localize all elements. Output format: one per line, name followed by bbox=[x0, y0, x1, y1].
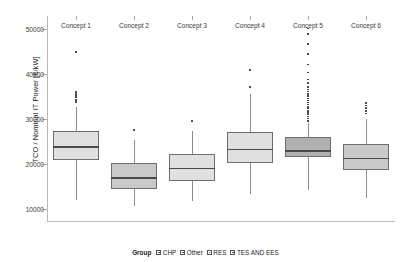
lower-whisker bbox=[192, 181, 193, 202]
outlier-point bbox=[307, 64, 309, 66]
y-tick-label: 10000 bbox=[26, 205, 44, 212]
y-tick-label: 30000 bbox=[26, 116, 44, 123]
box-iqr bbox=[111, 163, 157, 189]
outlier-point bbox=[365, 110, 367, 112]
box-plot-group bbox=[343, 16, 389, 222]
legend-entry[interactable]: TES AND EES bbox=[230, 249, 278, 256]
outlier-point bbox=[191, 120, 193, 122]
legend-entry-label: RES bbox=[213, 249, 226, 256]
outlier-point bbox=[307, 120, 309, 122]
box-plot-group bbox=[111, 16, 157, 222]
outlier-point bbox=[75, 93, 77, 95]
legend-key-icon bbox=[180, 250, 185, 255]
upper-whisker bbox=[76, 107, 77, 130]
outlier-point bbox=[307, 72, 309, 74]
legend-entry[interactable]: Other bbox=[180, 249, 202, 256]
lower-whisker bbox=[250, 163, 251, 194]
box-plot-group bbox=[227, 16, 273, 222]
lower-whisker bbox=[76, 160, 77, 199]
box-iqr bbox=[343, 144, 389, 170]
y-axis-label: TCO / Nominal IT Power [€/kW] bbox=[31, 15, 40, 205]
outlier-point bbox=[307, 33, 309, 35]
lower-whisker bbox=[308, 157, 309, 190]
legend-entry[interactable]: RES bbox=[207, 249, 227, 256]
outlier-point bbox=[365, 102, 367, 104]
lower-whisker bbox=[366, 170, 367, 198]
outlier-point bbox=[307, 98, 309, 100]
legend-key-icon bbox=[156, 250, 161, 255]
outlier-point bbox=[307, 106, 309, 108]
legend: Group CHPOtherRESTES AND EES bbox=[0, 249, 411, 256]
upper-whisker bbox=[134, 140, 135, 162]
box-plot-group bbox=[169, 16, 215, 222]
median-line bbox=[111, 177, 157, 178]
y-tick-label: 50000 bbox=[26, 26, 44, 33]
outlier-point bbox=[307, 79, 309, 81]
box-plot-group bbox=[285, 16, 331, 222]
outlier-point bbox=[307, 89, 309, 91]
outlier-point bbox=[307, 102, 309, 104]
outlier-point bbox=[75, 101, 77, 103]
legend-title: Group bbox=[132, 249, 151, 256]
upper-whisker bbox=[308, 123, 309, 136]
legend-key-icon bbox=[207, 250, 212, 255]
median-line bbox=[53, 146, 99, 147]
y-tick-label: 20000 bbox=[26, 160, 44, 167]
median-line bbox=[227, 149, 273, 150]
outlier-point bbox=[307, 95, 309, 97]
legend-entries: CHPOtherRESTES AND EES bbox=[156, 249, 279, 256]
outlier-point bbox=[365, 107, 367, 109]
outlier-point bbox=[307, 113, 309, 115]
outlier-point bbox=[75, 51, 77, 53]
median-line bbox=[343, 158, 389, 159]
outlier-point bbox=[307, 43, 309, 45]
y-tick-label: 40000 bbox=[26, 71, 44, 78]
box-plot-group bbox=[53, 16, 99, 222]
median-line bbox=[285, 150, 331, 151]
upper-whisker bbox=[250, 94, 251, 133]
legend-entry-label: TES AND EES bbox=[237, 249, 279, 256]
upper-whisker bbox=[366, 119, 367, 144]
outlier-point bbox=[307, 53, 309, 55]
outlier-point bbox=[307, 111, 309, 113]
outlier-point bbox=[307, 82, 309, 84]
upper-whisker bbox=[192, 131, 193, 154]
outlier-point bbox=[249, 86, 251, 88]
outlier-point bbox=[133, 129, 135, 131]
outlier-point bbox=[75, 95, 77, 97]
median-line bbox=[169, 168, 215, 169]
outlier-point bbox=[365, 113, 367, 115]
outlier-point bbox=[307, 93, 309, 95]
boxplot-figure: TCO / Nominal IT Power [€/kW] 1000020000… bbox=[0, 0, 411, 262]
box-iqr bbox=[285, 137, 331, 157]
legend-key-icon bbox=[230, 250, 235, 255]
plot-area: 1000020000300004000050000 Concept 1Conce… bbox=[47, 16, 395, 222]
outlier-point bbox=[249, 69, 251, 71]
outlier-point bbox=[307, 28, 309, 30]
legend-entry[interactable]: CHP bbox=[156, 249, 176, 256]
outlier-point bbox=[307, 116, 309, 118]
outlier-point bbox=[365, 105, 367, 107]
outlier-point bbox=[75, 91, 77, 93]
lower-whisker bbox=[134, 189, 135, 206]
legend-entry-label: CHP bbox=[163, 249, 177, 256]
y-axis-spine bbox=[47, 16, 48, 222]
outlier-point bbox=[307, 86, 309, 88]
legend-entry-label: Other bbox=[187, 249, 203, 256]
outlier-point bbox=[75, 99, 77, 101]
